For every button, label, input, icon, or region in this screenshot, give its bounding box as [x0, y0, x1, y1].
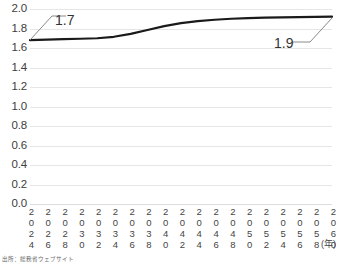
- end-value-callout: 1.9: [274, 36, 293, 50]
- start-value-callout: 1.7: [55, 13, 74, 27]
- y-tick-label: 1.0: [12, 101, 27, 113]
- x-tick-label: 2030: [74, 206, 86, 250]
- y-tick-label: 2.0: [12, 3, 27, 15]
- y-tick-label: 1.8: [12, 23, 27, 35]
- axis-baseline: [30, 204, 332, 205]
- line-chart: 2.0 1.8 1.6 1.4 1.2 1.0 0.8 0.6 0.4 0.2 …: [0, 0, 339, 267]
- x-tick-label: 2048: [225, 206, 237, 250]
- y-tick-label: 1.2: [12, 81, 27, 93]
- x-tick-label: 2054: [276, 206, 288, 250]
- y-axis: 2.0 1.8 1.6 1.4 1.2 1.0 0.8 0.6 0.4 0.2 …: [0, 0, 28, 204]
- y-tick-label: 1.6: [12, 42, 27, 54]
- x-axis-unit-label: (年): [321, 240, 336, 249]
- y-tick-label: 0.4: [12, 159, 27, 171]
- source-note: 出所：総務省ウェブサイト: [2, 256, 74, 262]
- x-tick-label: 2052: [259, 206, 271, 250]
- x-tick-label: 2044: [192, 206, 204, 250]
- y-tick-label: 0.2: [12, 179, 27, 191]
- x-tick-label: 2056: [292, 206, 304, 250]
- x-tick-label: 2046: [209, 206, 221, 250]
- x-tick-label: 2028: [58, 206, 70, 250]
- x-tick-label: 2050: [242, 206, 254, 250]
- x-tick-label: 2036: [125, 206, 137, 250]
- x-tick-label: 2042: [175, 206, 187, 250]
- x-axis: 2024202620282030203220342036203820402042…: [30, 206, 332, 250]
- y-tick-label: 0.8: [12, 120, 27, 132]
- x-tick-label: 2058: [309, 206, 321, 250]
- x-tick-label: 2024: [24, 206, 36, 250]
- x-tick-label: 2034: [108, 206, 120, 250]
- x-tick-label: 2040: [158, 206, 170, 250]
- x-tick-label: 2038: [141, 206, 153, 250]
- y-tick-label: 0.6: [12, 140, 27, 152]
- y-tick-label: 1.4: [12, 62, 27, 74]
- x-tick-label: 2026: [41, 206, 53, 250]
- x-tick-label: 2032: [91, 206, 103, 250]
